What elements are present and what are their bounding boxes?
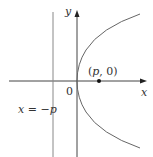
y-axis-label: y [64,5,72,18]
x-axis-label: x [141,86,148,99]
focus-label: (p, 0) [88,65,118,78]
parabola-diagram: y x 0 (p, 0) x = −p [0,0,153,157]
directrix-label: x = −p [18,103,57,116]
origin-label: 0 [66,85,73,98]
focus-point [97,79,101,83]
x-axis-arrow-icon [140,79,147,84]
y-axis-arrow-icon [75,10,80,17]
